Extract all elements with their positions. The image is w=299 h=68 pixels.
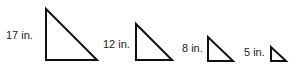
label-12in: 12 in. xyxy=(103,38,130,50)
triangle-5in xyxy=(271,47,286,61)
triangle-12in xyxy=(136,24,172,60)
label-17in: 17 in. xyxy=(6,29,33,41)
triangle-17in xyxy=(46,9,97,60)
triangle-8in xyxy=(208,37,233,61)
label-5in: 5 in. xyxy=(244,46,265,58)
label-8in: 8 in. xyxy=(182,42,203,54)
